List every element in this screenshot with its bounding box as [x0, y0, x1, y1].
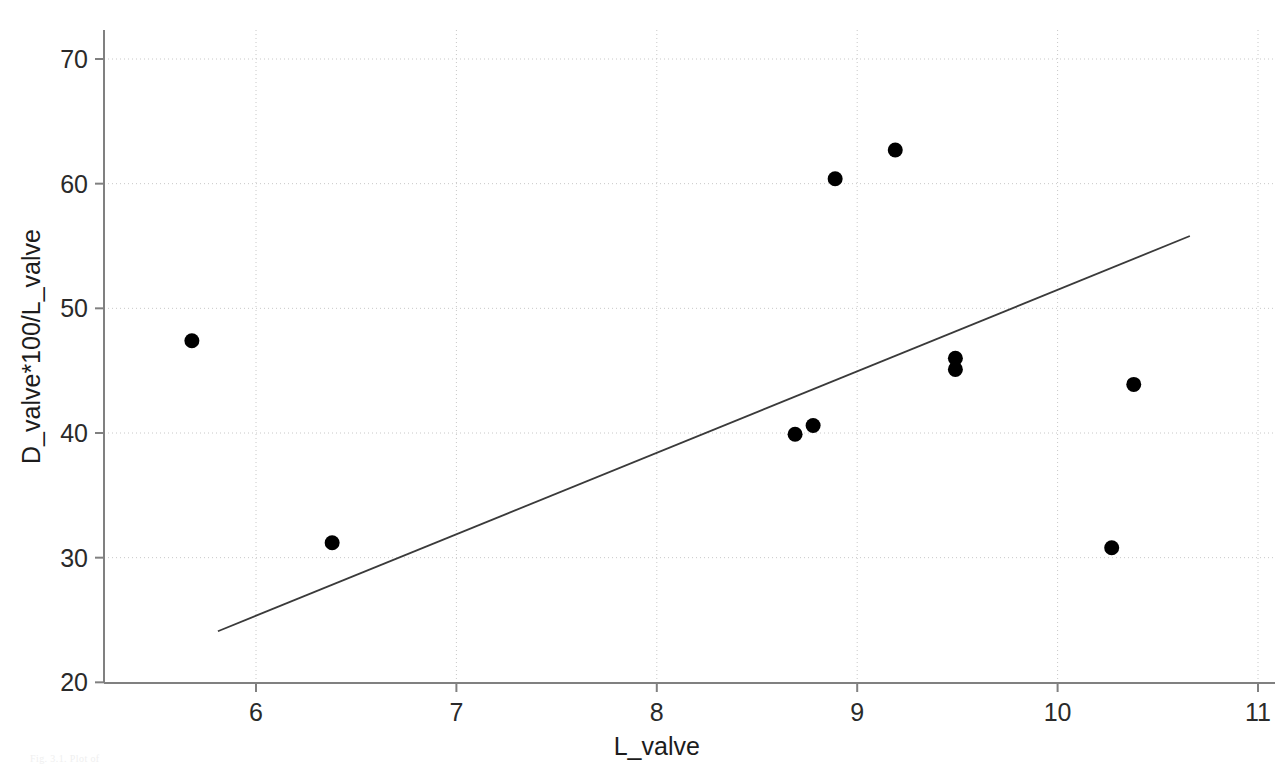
- x-tick-label-6: 6: [249, 698, 263, 726]
- regression-line-group: [218, 236, 1190, 631]
- data-point-4: [828, 171, 843, 186]
- scatter-plot-figure: 20304050607067891011L_valveD_valve*100/L…: [0, 0, 1281, 766]
- x-tick-label-10: 10: [1044, 698, 1072, 726]
- data-point-1: [325, 535, 340, 550]
- x-tick-label-11: 11: [1245, 698, 1271, 726]
- figure-caption: Fig. 3.1. Plot of: [30, 753, 100, 764]
- y-tick-label-70: 70: [60, 45, 88, 73]
- data-points: [184, 143, 1141, 556]
- y-tick-label-30: 30: [60, 544, 88, 572]
- x-tick-label-8: 8: [650, 698, 664, 726]
- data-point-8: [1104, 540, 1119, 555]
- plot-canvas: 20304050607067891011L_valveD_valve*100/L…: [0, 0, 1281, 766]
- y-tick-label-60: 60: [60, 170, 88, 198]
- y-tick-label-20: 20: [60, 668, 88, 696]
- regression-line: [218, 236, 1190, 631]
- x-tick-label-7: 7: [449, 698, 463, 726]
- y-tick-label-50: 50: [60, 294, 88, 322]
- data-point-9: [1126, 377, 1141, 392]
- y-axis-title: D_valve*100/L_valve: [17, 229, 45, 464]
- data-point-0: [184, 333, 199, 348]
- gridlines: [104, 30, 1275, 683]
- data-point-3: [806, 418, 821, 433]
- tick-labels: 20304050607067891011L_valveD_valve*100/L…: [17, 45, 1271, 760]
- x-axis-title: L_valve: [614, 732, 700, 760]
- data-point-7: [948, 362, 963, 377]
- x-tick-label-9: 9: [850, 698, 864, 726]
- data-point-2: [788, 427, 803, 442]
- y-tick-label-40: 40: [60, 419, 88, 447]
- axes: [95, 30, 1275, 692]
- data-point-5: [888, 143, 903, 158]
